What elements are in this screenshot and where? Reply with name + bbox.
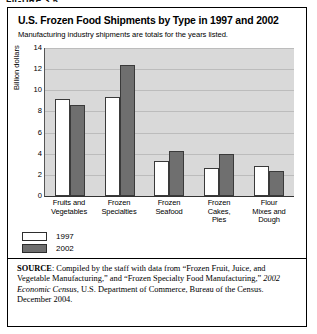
y-axis-tick-label: 14 bbox=[34, 44, 42, 52]
bar-2002 bbox=[219, 154, 234, 196]
figure-number-label: FIGURE 3.5 bbox=[6, 0, 58, 2]
x-axis-labels: Fruits andVegetablesFrozenSpecialtiesFro… bbox=[44, 199, 294, 225]
bar-1997 bbox=[154, 161, 169, 196]
chart-legend: 1997 2002 bbox=[22, 232, 306, 253]
bar-1997 bbox=[55, 99, 70, 196]
bar-1997 bbox=[204, 168, 219, 196]
x-axis-label: FrozenSeafood bbox=[144, 199, 194, 225]
bar-groups bbox=[45, 48, 294, 196]
y-axis-tick-label: 4 bbox=[38, 150, 42, 158]
legend-label-1997: 1997 bbox=[56, 232, 74, 241]
y-axis-tick-label: 12 bbox=[34, 65, 42, 73]
bar-1997 bbox=[254, 166, 269, 196]
legend-item-2002: 2002 bbox=[22, 244, 306, 253]
chart-title: U.S. Frozen Food Shipments by Type in 19… bbox=[18, 15, 296, 27]
bar-1997 bbox=[105, 97, 120, 196]
source-label: SOURCE bbox=[17, 264, 52, 273]
x-axis-label: FrozenSpecialties bbox=[94, 199, 144, 225]
legend-label-2002: 2002 bbox=[56, 244, 74, 253]
bar-group bbox=[95, 48, 145, 196]
chart-header: U.S. Frozen Food Shipments by Type in 19… bbox=[8, 8, 306, 40]
x-axis-label: FrozenCakes,Pies bbox=[194, 199, 244, 225]
source-note: SOURCE: Compiled by the staff with data … bbox=[8, 259, 306, 306]
y-axis-tick-label: 0 bbox=[38, 192, 42, 200]
y-axis-tick-label: 10 bbox=[34, 86, 42, 94]
bar-group bbox=[45, 48, 95, 196]
x-axis-label: FlourMixes andDough bbox=[244, 199, 294, 225]
chart-subtitle: Manufacturing industry shipments are tot… bbox=[18, 29, 296, 40]
legend-item-1997: 1997 bbox=[22, 232, 306, 241]
bar-2002 bbox=[269, 171, 284, 196]
bar-group bbox=[194, 48, 244, 196]
y-axis-tick-label: 6 bbox=[38, 129, 42, 137]
x-axis-label: Fruits andVegetables bbox=[44, 199, 94, 225]
y-axis-tick-label: 2 bbox=[38, 171, 42, 179]
bar-2002 bbox=[70, 105, 85, 196]
plot-area: 02468101214 bbox=[44, 48, 294, 197]
y-axis-title: Billion dollars bbox=[12, 45, 21, 90]
bar-2002 bbox=[120, 65, 135, 196]
legend-swatch-1997 bbox=[22, 232, 47, 241]
bar-group bbox=[244, 48, 294, 196]
bar-group bbox=[145, 48, 195, 196]
figure-container: U.S. Frozen Food Shipments by Type in 19… bbox=[7, 7, 307, 327]
source-text-part1: : Compiled by the staff with data from “… bbox=[17, 264, 266, 283]
bar-2002 bbox=[169, 151, 184, 196]
bar-chart: Billion dollars 02468101214 Fruits andVe… bbox=[8, 46, 306, 228]
y-axis-tick-label: 8 bbox=[38, 107, 42, 115]
legend-swatch-2002 bbox=[22, 244, 47, 253]
